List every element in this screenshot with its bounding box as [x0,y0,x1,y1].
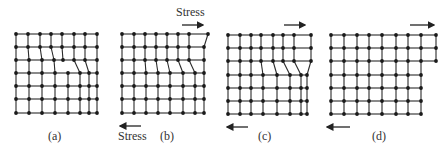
stress-label-top: Stress [176,5,205,20]
panel-label-a: (a) [48,129,61,144]
panel-label-d: (d) [372,129,386,144]
panel-label-c: (c) [258,129,271,144]
panel-label-b: (b) [160,129,174,144]
stress-label-bottom: Stress [118,129,147,144]
